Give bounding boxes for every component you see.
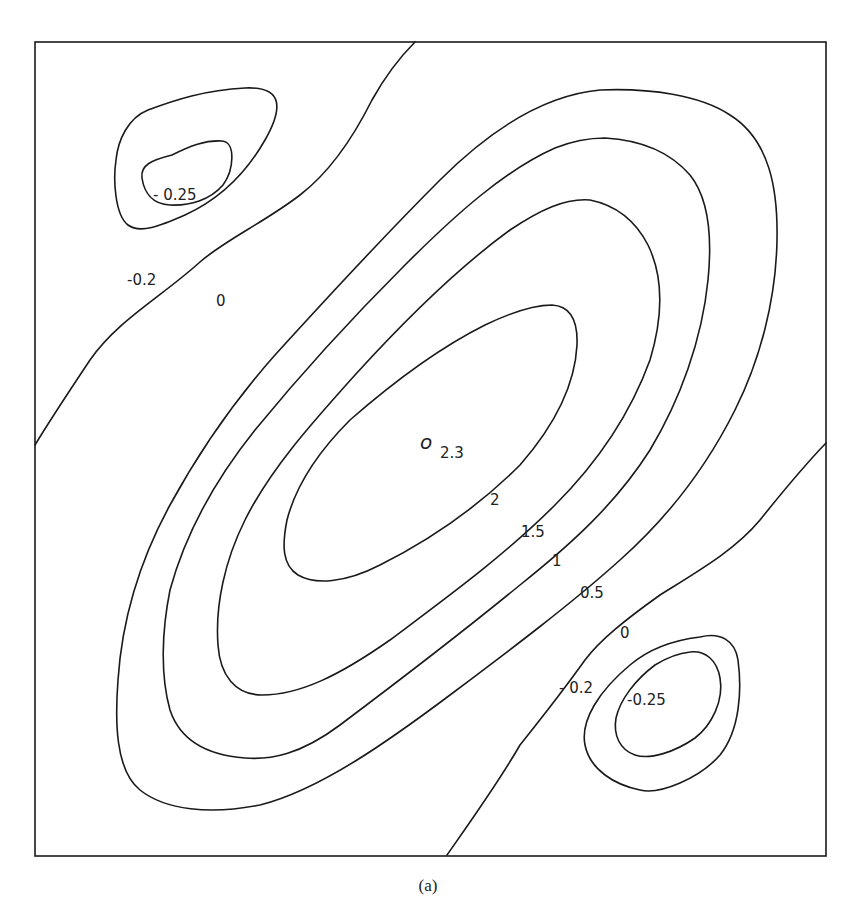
label-0-upper-left: 0 (216, 292, 226, 310)
contour-figure: - 0.25 -0.2 0 o 2.3 2 1.5 1 0.5 0 - 0.2 … (0, 0, 856, 914)
label-neg0.25-lower-right: -0.25 (627, 691, 666, 709)
contour-0-lower-right (447, 443, 826, 855)
contour-0-upper-left (35, 42, 415, 445)
contour-neg0.2-upper-left (115, 88, 277, 229)
figure-caption: (a) (0, 876, 856, 896)
label-neg0.2-upper-left: -0.2 (127, 271, 156, 289)
label-level-1.5: 1.5 (521, 523, 545, 541)
contour-plot: - 0.25 -0.2 0 o 2.3 2 1.5 1 0.5 0 - 0.2 … (0, 0, 856, 914)
label-peak-2.3: 2.3 (440, 444, 464, 462)
contour-1.5 (217, 200, 659, 695)
label-level-2: 2 (490, 491, 500, 509)
label-level-0.5: 0.5 (580, 584, 604, 602)
label-neg0.25-upper-left: - 0.25 (153, 186, 197, 204)
label-neg0.2-lower-right: - 0.2 (559, 679, 593, 697)
contour-neg0.2-lower-right (584, 636, 739, 791)
label-level-1: 1 (552, 552, 562, 570)
peak-marker-icon: o (420, 430, 432, 454)
label-0-lower-right: 0 (620, 624, 630, 642)
